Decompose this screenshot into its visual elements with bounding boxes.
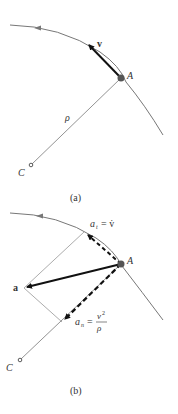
center-c-dot bbox=[18, 358, 22, 362]
acceleration-label: a bbox=[13, 282, 18, 293]
point-a-label: A bbox=[126, 255, 134, 266]
radius-line-a bbox=[32, 78, 121, 164]
acceleration-vector bbox=[27, 264, 121, 287]
point-a-dot bbox=[118, 261, 125, 268]
path-direction-arrow-icon bbox=[36, 214, 43, 219]
an-subscript: n bbox=[81, 322, 84, 328]
point-a-dot bbox=[118, 75, 125, 82]
an-numerator-exponent: 2 bbox=[102, 310, 105, 316]
velocity-vector bbox=[89, 45, 121, 78]
an-symbol: a bbox=[75, 316, 80, 327]
at-subscript: t bbox=[96, 224, 98, 230]
normal-acceleration-vector bbox=[65, 264, 121, 319]
tangential-acceleration-label: a t = v̇ bbox=[90, 218, 114, 230]
path-curve-b bbox=[10, 213, 163, 320]
caption-b: (b) bbox=[70, 385, 82, 397]
point-a-label: A bbox=[126, 70, 134, 81]
path-curve-a bbox=[10, 25, 163, 135]
normal-acceleration-label: a n = v 2 ρ bbox=[75, 310, 107, 333]
caption-a: (a) bbox=[70, 192, 81, 204]
at-equation: = v̇ bbox=[101, 218, 114, 229]
panel-b: A a C a t = v̇ a n = v 2 ρ (b) bbox=[6, 213, 163, 397]
path-direction-arrow-icon bbox=[34, 26, 41, 31]
construction-line-bottom bbox=[24, 288, 62, 322]
radius-label: ρ bbox=[64, 112, 70, 123]
center-c-label: C bbox=[6, 362, 13, 373]
an-equals: = bbox=[87, 316, 93, 327]
center-c-dot bbox=[29, 163, 33, 167]
kinematics-figure: v A ρ C (a) A a C a t = v̇ bbox=[0, 0, 178, 414]
an-numerator: v bbox=[97, 311, 101, 321]
center-c-label: C bbox=[18, 167, 25, 178]
at-symbol: a bbox=[90, 218, 95, 229]
tangential-acceleration-vector bbox=[88, 235, 121, 264]
panel-a: v A ρ C (a) bbox=[10, 25, 163, 204]
an-denominator: ρ bbox=[96, 323, 102, 333]
velocity-label: v bbox=[97, 38, 102, 49]
